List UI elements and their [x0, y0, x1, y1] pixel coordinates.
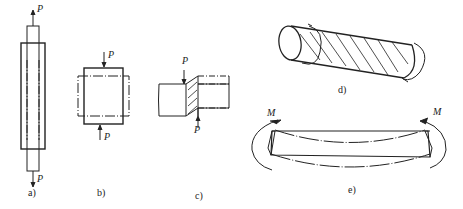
diagram-canvas [0, 0, 463, 209]
load-label-a-top: P [37, 3, 43, 14]
deformation-diagram: P P a) P P b) P P c) d) M M e) [0, 0, 463, 209]
figure-a-tension [21, 10, 45, 187]
load-label-b-bottom: P [104, 131, 110, 142]
load-label-a-bottom: P [37, 173, 43, 184]
caption-a: a) [28, 187, 36, 198]
moment-label-e-left: M [267, 107, 275, 118]
load-label-c-bottom: P [194, 124, 200, 135]
figure-d-torsion [277, 24, 425, 82]
figure-c-shear [159, 70, 230, 128]
figure-e-bending [252, 118, 446, 170]
caption-c: c) [195, 190, 203, 201]
figure-b-compression [78, 52, 129, 140]
caption-e: e) [348, 184, 356, 195]
moment-label-e-right: M [433, 106, 441, 117]
caption-d: d) [338, 84, 346, 95]
caption-b: b) [97, 187, 105, 198]
load-label-b-top: P [108, 49, 114, 60]
load-label-c-top: P [182, 55, 188, 66]
